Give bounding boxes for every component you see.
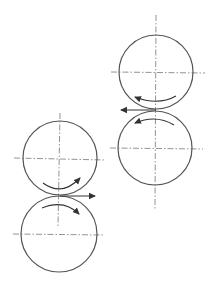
left-upper-roll-horizontal-centerline	[14, 158, 106, 160]
left-upper-rotation-arrow-icon	[43, 178, 80, 189]
right-pair-vertical-centerline	[155, 15, 156, 210]
left-lower-roll-horizontal-centerline	[13, 234, 104, 235]
right-upper-roll-horizontal-centerline	[111, 72, 205, 73]
left-pair-vertical-centerline	[58, 113, 60, 228]
right-lower-roll-horizontal-centerline	[110, 148, 203, 149]
right-lower-rotation-arrow-icon	[135, 119, 174, 125]
right-roll-pair	[110, 15, 205, 210]
left-lower-rotation-arrow-icon	[42, 205, 79, 214]
left-lower-roll	[21, 196, 97, 272]
left-upper-roll	[23, 121, 97, 195]
left-roll-pair	[13, 113, 106, 272]
rolling-rolls-diagram	[0, 0, 215, 284]
